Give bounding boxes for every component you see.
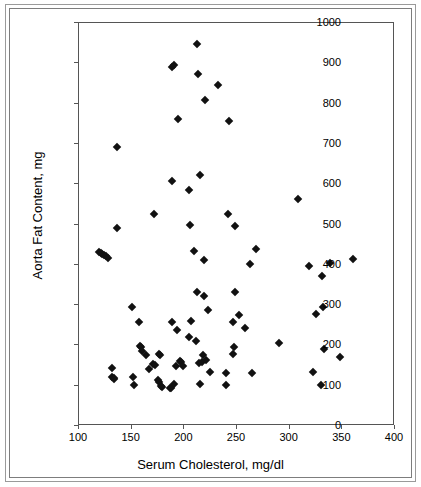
data-point <box>223 210 231 218</box>
data-point <box>173 325 181 333</box>
y-tick-label: 300 <box>291 299 341 310</box>
data-point <box>241 324 249 332</box>
data-point <box>167 317 175 325</box>
y-tick-mark <box>74 224 78 225</box>
x-tick-label: 100 <box>48 432 108 443</box>
x-tick-label: 400 <box>364 432 421 443</box>
y-tick-mark <box>74 385 78 386</box>
x-tick-mark <box>289 425 290 429</box>
data-point <box>186 317 194 325</box>
y-tick-mark <box>74 103 78 104</box>
plot-area <box>78 22 394 425</box>
y-tick-label: 900 <box>291 57 341 68</box>
y-tick-label: 600 <box>291 178 341 189</box>
x-tick-label: 200 <box>153 432 213 443</box>
x-tick-mark <box>394 425 395 429</box>
y-tick-mark <box>74 62 78 63</box>
y-tick-mark <box>74 344 78 345</box>
y-tick-label: 500 <box>291 218 341 229</box>
data-point <box>167 177 175 185</box>
y-tick-label: 200 <box>291 339 341 350</box>
data-point <box>127 303 135 311</box>
data-point <box>231 288 239 296</box>
figure-container: Aorta Fat Content, mg Serum Cholesterol,… <box>0 0 421 487</box>
data-point <box>194 70 202 78</box>
data-point <box>190 247 198 255</box>
x-tick-mark <box>78 425 79 429</box>
data-point <box>245 259 253 267</box>
x-tick-mark <box>341 425 342 429</box>
x-tick-label: 250 <box>206 432 266 443</box>
data-point <box>135 317 143 325</box>
data-point <box>179 361 187 369</box>
data-point <box>252 244 260 252</box>
y-tick-label: 800 <box>291 97 341 108</box>
data-point <box>214 81 222 89</box>
y-tick-mark <box>74 304 78 305</box>
data-point <box>203 306 211 314</box>
data-point <box>224 116 232 124</box>
data-point <box>104 253 112 261</box>
x-tick-label: 300 <box>259 432 319 443</box>
x-tick-label: 150 <box>101 432 161 443</box>
y-tick-label: 700 <box>291 137 341 148</box>
y-tick-mark <box>74 22 78 23</box>
data-point <box>113 224 121 232</box>
data-point <box>309 368 317 376</box>
y-tick-mark <box>74 264 78 265</box>
data-point <box>318 271 326 279</box>
y-tick-label: 400 <box>291 258 341 269</box>
data-point <box>229 317 237 325</box>
data-point <box>312 310 320 318</box>
data-point <box>349 255 357 263</box>
data-point <box>174 114 182 122</box>
data-point <box>192 337 200 345</box>
y-tick-label: 0 <box>291 420 341 431</box>
x-tick-label: 350 <box>311 432 371 443</box>
data-point <box>156 350 164 358</box>
data-point <box>222 381 230 389</box>
data-point <box>231 221 239 229</box>
x-tick-mark <box>183 425 184 429</box>
data-point <box>201 96 209 104</box>
data-point <box>130 381 138 389</box>
data-point <box>229 350 237 358</box>
y-tick-label: 100 <box>291 379 341 390</box>
data-point <box>107 364 115 372</box>
data-point <box>200 292 208 300</box>
y-tick-mark <box>74 183 78 184</box>
data-point <box>113 143 121 151</box>
data-point <box>200 256 208 264</box>
data-point <box>294 195 302 203</box>
data-point <box>150 209 158 217</box>
data-point <box>235 311 243 319</box>
data-point <box>336 352 344 360</box>
x-tick-mark <box>131 425 132 429</box>
data-point <box>222 369 230 377</box>
data-point <box>142 351 150 359</box>
x-axis-title: Serum Cholesterol, mg/dl <box>0 457 421 472</box>
data-point <box>193 40 201 48</box>
data-point <box>184 186 192 194</box>
x-tick-mark <box>236 425 237 429</box>
y-axis-title: Aorta Fat Content, mg <box>30 16 45 416</box>
data-point <box>247 369 255 377</box>
data-point <box>196 379 204 387</box>
data-point <box>196 170 204 178</box>
y-tick-mark <box>74 143 78 144</box>
data-point <box>185 220 193 228</box>
data-point <box>275 339 283 347</box>
data-point <box>205 368 213 376</box>
y-tick-label: 1000 <box>291 17 341 28</box>
